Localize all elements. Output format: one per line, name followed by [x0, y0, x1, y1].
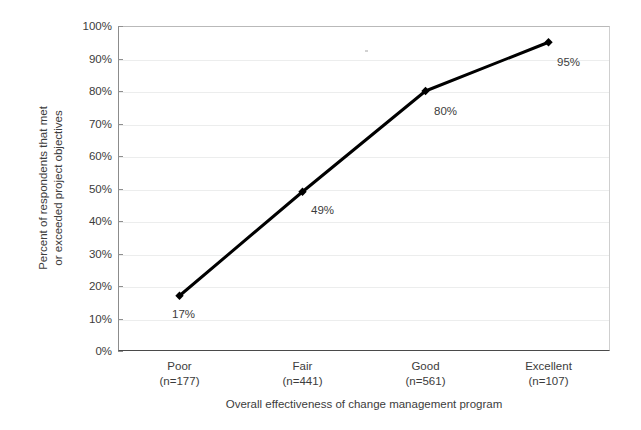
x-axis-category-name: Good — [406, 359, 446, 374]
y-axis-tick-mark — [118, 59, 123, 60]
y-axis-tick-mark — [118, 351, 123, 352]
y-axis-tick-mark — [118, 189, 123, 190]
chart-figure: Percent of respondents that met or excee… — [0, 0, 641, 430]
data-point-label: 95% — [557, 56, 580, 68]
x-axis-tick-label: Excellent(n=107) — [525, 359, 572, 389]
x-axis-category-name: Fair — [283, 359, 323, 374]
data-point-label: 17% — [172, 308, 195, 320]
x-axis-category-count: (n=177) — [160, 374, 200, 389]
y-axis-tick-mark — [118, 156, 123, 157]
y-axis-tick-mark — [118, 221, 123, 222]
series-line — [180, 42, 549, 296]
x-axis-title: Overall effectiveness of change manageme… — [118, 398, 610, 410]
x-axis-tick-label: Good(n=561) — [406, 359, 446, 389]
x-axis-category-name: Excellent — [525, 359, 572, 374]
x-axis-category-name: Poor — [160, 359, 200, 374]
x-axis-category-count: (n=441) — [283, 374, 323, 389]
data-point-label: 49% — [311, 204, 334, 216]
y-axis-tick-mark — [118, 254, 123, 255]
x-axis-tick-label: Poor(n=177) — [160, 359, 200, 389]
y-axis-tick-mark — [118, 26, 123, 27]
data-point-label: 80% — [434, 105, 457, 117]
x-axis-category-count: (n=107) — [525, 374, 572, 389]
y-axis-tick-mark — [118, 91, 123, 92]
y-axis-tick-mark — [118, 286, 123, 287]
x-axis-category-count: (n=561) — [406, 374, 446, 389]
y-axis-tick-mark — [118, 319, 123, 320]
x-axis-tick-label: Fair(n=441) — [283, 359, 323, 389]
y-axis-tick-mark — [118, 124, 123, 125]
data-point-marker — [544, 38, 552, 46]
